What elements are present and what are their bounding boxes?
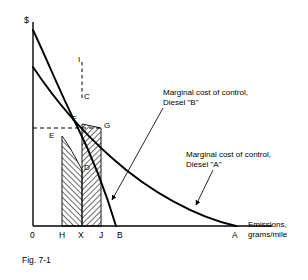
point-label-i: I (78, 55, 80, 64)
y-axis-label: $ (24, 16, 29, 25)
x-tick-label-a: A (232, 231, 238, 240)
annotation-diesel-b-line1: Marginal cost of control, (163, 88, 248, 98)
x-axis-title-line2: grams/mile (248, 230, 287, 240)
figure-7-1: $ I C F G E D 0 H X J B A Emissions, gra… (0, 0, 308, 280)
x-tick-label-h: H (59, 231, 65, 240)
x-axis-title-line1: Emissions, (248, 220, 287, 230)
point-label-c: C (84, 92, 90, 101)
figure-caption: Fig. 7-1 (22, 256, 51, 265)
point-label-g: G (104, 121, 110, 130)
shaded-region-HXDE (62, 136, 82, 226)
x-tick-label-zero: 0 (30, 231, 35, 240)
annotation-diesel-a-line1: Marginal cost of control, (186, 150, 271, 160)
point-label-d: D (84, 163, 90, 172)
point-label-f: F (72, 114, 77, 123)
point-label-e: E (49, 131, 54, 140)
annotation-diesel-a-line2: Diesel "A" (186, 160, 221, 170)
x-tick-label-x: X (78, 231, 84, 240)
leader-line-diesel-a (196, 170, 213, 205)
x-tick-label-j: J (99, 231, 103, 240)
annotation-diesel-b-line2: Diesel "B" (163, 98, 198, 108)
leader-line-diesel-b (112, 108, 163, 200)
x-tick-label-b: B (117, 231, 123, 240)
